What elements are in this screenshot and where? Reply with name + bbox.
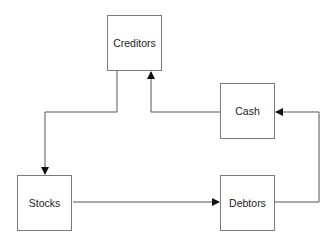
node-debtors: Debtors [220,175,275,231]
edge-creditors-stocks [45,71,117,174]
node-label: Debtors [229,197,266,209]
node-cash: Cash [220,83,275,139]
node-label: Stocks [29,197,61,209]
node-label: Creditors [113,37,156,49]
node-stocks: Stocks [17,175,72,231]
node-creditors: Creditors [107,15,162,71]
edge-debtors-cash [275,112,319,202]
node-label: Cash [235,105,260,117]
edge-cash-creditors [151,72,220,112]
